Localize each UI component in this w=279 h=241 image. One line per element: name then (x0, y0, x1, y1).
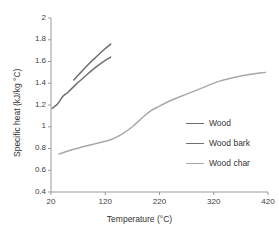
legend-item-wood-bark[interactable]: Wood bark (186, 138, 250, 148)
legend-line-swatch (186, 143, 204, 144)
legend-item-wood[interactable]: Wood (186, 118, 250, 128)
chart-legend: WoodWood barkWood char (186, 118, 250, 168)
series-line-wood-bark (52, 57, 111, 108)
legend-item-wood-char[interactable]: Wood char (186, 158, 250, 168)
legend-label: Wood bark (209, 138, 250, 148)
x-axis-title: Temperature (°C) (0, 214, 279, 224)
legend-line-swatch (186, 123, 204, 124)
specific-heat-line-chart: Specific heat (kJ/kg °C) 0.40.60.811.21.… (0, 0, 279, 241)
legend-label: Wood char (209, 158, 250, 168)
legend-label: Wood (209, 118, 231, 128)
legend-line-swatch (186, 163, 204, 164)
series-line-wood (74, 44, 111, 80)
